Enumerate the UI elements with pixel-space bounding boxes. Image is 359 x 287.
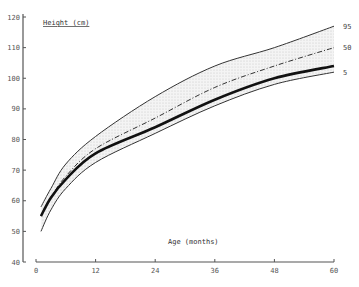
x-tick-label: 36 <box>211 267 219 275</box>
y-tick-label: 40 <box>12 259 20 267</box>
y-tick-label: 70 <box>12 167 20 175</box>
y-tick-label: 120 <box>7 14 20 22</box>
x-tick-label: 24 <box>151 267 159 275</box>
y-tick-label: 100 <box>7 75 20 83</box>
x-tick-label: 60 <box>330 267 338 275</box>
percentile-label-95: 95 <box>343 23 351 31</box>
percentile-labels: 95505 <box>343 23 351 77</box>
x-tick-label: 48 <box>270 267 278 275</box>
y-tick-label: 90 <box>12 105 20 113</box>
y-tick-label: 60 <box>12 197 20 205</box>
x-tick-label: 12 <box>91 267 99 275</box>
y-axis-title: Height (cm) <box>43 19 89 27</box>
percentile-label-50: 50 <box>343 44 351 52</box>
percentile-band <box>41 26 334 231</box>
percentile-label-5: 5 <box>343 69 347 77</box>
growth-chart: 40506070809010011012001224364860 Height … <box>0 0 359 287</box>
y-tick-label: 80 <box>12 136 20 144</box>
y-tick-label: 110 <box>7 44 20 52</box>
y-tick-label: 50 <box>12 228 20 236</box>
x-tick-label: 0 <box>34 267 38 275</box>
x-axis-title: Age (months) <box>168 238 219 246</box>
